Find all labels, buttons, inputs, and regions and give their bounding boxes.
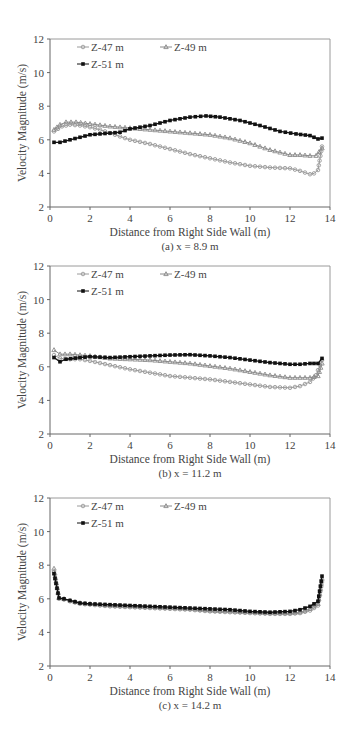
legend-item-3: Z-51 m: [77, 517, 124, 529]
x-tick-label: 12: [285, 212, 296, 224]
square-marker: [168, 353, 172, 357]
x-tick-label: 14: [325, 671, 337, 683]
series-z-47-m: [52, 123, 324, 176]
legend-label: Z-47 m: [91, 41, 124, 53]
square-marker: [148, 124, 152, 128]
square-marker: [243, 609, 247, 613]
y-tick-label: 8: [39, 100, 45, 112]
panel-caption: (a) x = 8.9 m: [161, 240, 219, 253]
x-tick-label: 4: [127, 439, 133, 451]
square-marker: [288, 610, 292, 614]
square-marker: [103, 356, 107, 360]
square-marker: [81, 62, 85, 66]
square-marker: [320, 574, 324, 578]
square-marker: [158, 354, 162, 358]
chart-panel-2: 2468101202468101214Distance from Right S…: [16, 260, 336, 480]
y-axis-title: Velocity Magnitude (m/s): [16, 523, 29, 641]
square-marker: [123, 129, 127, 133]
square-marker: [88, 602, 92, 606]
x-tick-label: 6: [167, 439, 173, 451]
square-marker: [218, 608, 222, 612]
square-marker: [223, 116, 227, 120]
square-marker: [183, 353, 187, 357]
legend-item-2: Z-49 m: [160, 500, 207, 512]
x-tick-label: 8: [207, 671, 213, 683]
square-marker: [113, 603, 117, 607]
panel-caption: (c) x = 14.2 m: [159, 699, 222, 712]
square-marker: [203, 354, 207, 358]
square-marker: [263, 610, 267, 614]
y-tick-label: 6: [39, 134, 45, 146]
x-tick-label: 6: [167, 212, 173, 224]
legend-label: Z-49 m: [174, 500, 207, 512]
y-axis-title: Velocity Magnitude (m/s): [16, 64, 29, 182]
square-marker: [238, 357, 242, 361]
square-marker: [243, 120, 247, 124]
square-marker: [273, 128, 277, 132]
x-tick-label: 10: [245, 439, 257, 451]
square-marker: [273, 361, 277, 365]
square-marker: [214, 115, 218, 119]
square-marker: [133, 355, 137, 359]
square-marker: [188, 115, 192, 119]
square-marker: [74, 356, 78, 360]
square-marker: [268, 127, 272, 131]
square-marker: [81, 521, 85, 525]
square-marker: [273, 610, 277, 614]
square-marker: [318, 589, 322, 593]
square-marker: [103, 132, 107, 136]
x-tick-label: 2: [87, 439, 93, 451]
y-tick-label: 6: [39, 361, 45, 373]
square-marker: [78, 135, 82, 139]
legend-label: Z-47 m: [91, 500, 124, 512]
y-tick-label: 10: [33, 67, 45, 79]
square-marker: [52, 356, 56, 360]
y-tick-label: 8: [39, 559, 45, 571]
legend-label: Z-51 m: [91, 517, 124, 529]
square-marker: [233, 356, 237, 360]
x-tick-label: 14: [325, 439, 337, 451]
square-marker: [118, 355, 122, 359]
y-tick-label: 12: [33, 260, 44, 272]
square-marker: [228, 117, 232, 121]
square-marker: [108, 356, 112, 360]
square-marker: [83, 602, 87, 606]
square-marker: [158, 121, 162, 125]
square-marker: [316, 600, 320, 604]
square-marker: [320, 357, 324, 361]
square-marker: [208, 607, 212, 611]
legend: Z-47 mZ-49 mZ-51 m: [77, 500, 207, 529]
square-marker: [83, 355, 87, 359]
square-marker: [93, 133, 97, 137]
square-marker: [253, 122, 257, 126]
x-tick-label: 4: [127, 212, 133, 224]
figure-canvas: 2468101202468101214Distance from Right S…: [0, 0, 354, 732]
y-tick-label: 12: [33, 33, 44, 45]
square-marker: [258, 360, 262, 364]
square-marker: [228, 608, 232, 612]
square-marker: [143, 354, 147, 358]
square-marker: [81, 289, 85, 293]
square-marker: [188, 353, 192, 357]
square-marker: [253, 359, 257, 363]
square-marker: [198, 607, 202, 611]
x-tick-label: 12: [285, 671, 296, 683]
legend-item-1: Z-47 m: [77, 500, 124, 512]
legend-item-2: Z-49 m: [160, 41, 207, 53]
square-marker: [263, 360, 267, 364]
square-marker: [69, 357, 73, 361]
square-marker: [58, 141, 62, 145]
square-marker: [228, 356, 232, 360]
legend-label: Z-49 m: [174, 41, 207, 53]
square-marker: [113, 131, 117, 135]
square-marker: [54, 582, 58, 586]
square-marker: [113, 356, 117, 360]
square-marker: [183, 116, 187, 120]
x-tick-label: 12: [285, 439, 296, 451]
square-marker: [288, 362, 292, 366]
square-marker: [293, 362, 297, 366]
square-marker: [319, 584, 323, 588]
square-marker: [278, 610, 282, 614]
y-tick-label: 4: [39, 394, 45, 406]
square-marker: [52, 141, 56, 145]
